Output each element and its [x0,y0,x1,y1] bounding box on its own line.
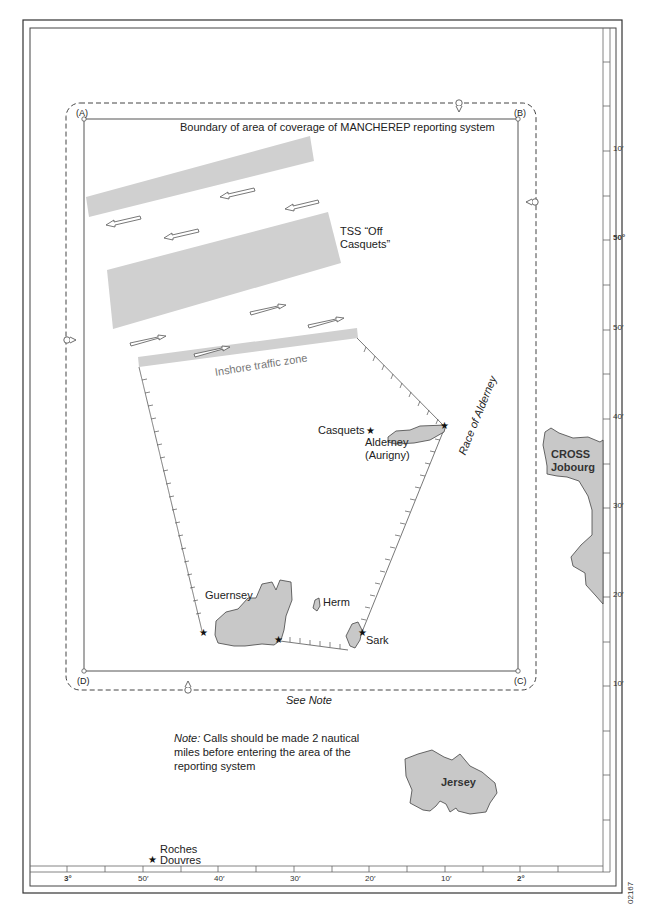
lat-tick-label: 10′ [613,144,623,153]
herm-island [313,598,320,611]
corner-c-label: (C) [514,675,527,688]
place-douvres: Douvres [160,854,201,867]
lat-tick-label: 50° [613,233,625,242]
lat-tick-label: 10′ [613,679,623,688]
itz-boundary [139,338,445,650]
lat-tick-label: 20′ [613,590,623,599]
tss-separation-central [107,212,341,329]
lon-tick-label: 50′ [138,874,148,883]
place-alderney-alt: (Aurigny) [365,449,410,462]
lat-tick-label: 40′ [613,412,623,421]
chart-code: 02167 [626,882,635,904]
note-prefix: Note: [174,732,200,744]
lon-tick-label: 30′ [290,874,300,883]
tss-label-line1: TSS “Off [340,225,383,238]
lat-scale-ticks [603,62,610,820]
corner-a-label: (A) [76,107,88,120]
lat-tick-label: 50′ [613,323,623,332]
star-icon: ★ [440,421,449,431]
star-icon: ★ [366,426,375,436]
star-icon: ★ [199,628,208,638]
lat-tick-label: 30′ [613,501,623,510]
place-cross: CROSS [551,448,590,461]
place-guernsey: Guernsey [205,589,253,602]
note-body: Calls should be made 2 nautical miles be… [174,732,359,772]
place-herm: Herm [323,596,350,609]
place-jobourg: Jobourg [551,461,595,474]
place-alderney: Alderney [365,436,408,449]
corner-b-label: (B) [514,107,526,120]
lon-tick-label: 10′ [441,874,451,883]
tss-label-line2: Casquets” [340,238,390,251]
tss-separation-north [86,136,314,217]
place-sark: Sark [366,634,389,647]
lon-tick-label: 40′ [214,874,224,883]
place-casquets: Casquets [318,424,364,437]
lon-scale-ticks [67,866,558,872]
boundary-title: Boundary of area of coverage of MANCHERE… [180,121,495,134]
lon-tick-label: 20′ [365,874,375,883]
see-note-label: See Note [286,694,332,707]
place-jersey: Jersey [441,776,476,789]
star-icon: ★ [274,635,283,645]
star-icon: ★ [148,855,157,865]
lon-tick-label: 2° [517,874,525,883]
note-text: Note: Calls should be made 2 nautical mi… [174,731,384,773]
lon-tick-label: 3° [64,874,72,883]
star-icon: ★ [358,628,367,638]
corner-d-label: (D) [77,675,90,688]
